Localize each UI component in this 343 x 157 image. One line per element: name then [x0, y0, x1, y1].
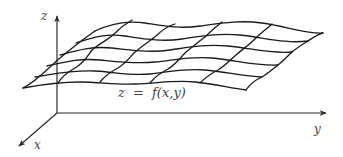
x-axis-label: x — [34, 138, 41, 152]
surface-function-label: z = f(x,y) — [117, 85, 186, 100]
mesh-line-x-3 — [100, 24, 175, 82]
mesh-line-y-5 — [76, 34, 308, 43]
surface-mesh — [23, 20, 323, 90]
function-rhs: f(x,y) — [151, 85, 186, 100]
mesh-line-y-4 — [60, 45, 292, 55]
axes — [19, 16, 326, 146]
mesh-line-y-6 — [95, 22, 323, 33]
z-axis-label: z — [40, 9, 48, 23]
function-equals: = — [133, 85, 144, 100]
function-lhs: z — [117, 85, 125, 100]
y-axis-label: y — [313, 122, 321, 136]
mesh-line-y-2 — [35, 69, 262, 77]
surface-diagram: z y x z = f(x,y) — [0, 0, 343, 157]
mesh-line-y-3 — [47, 57, 278, 66]
